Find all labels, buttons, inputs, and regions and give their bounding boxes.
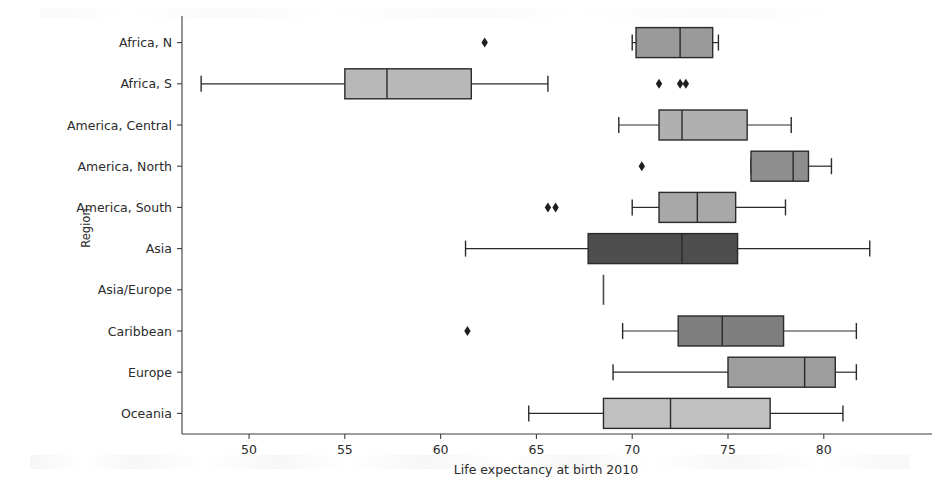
box-group-america-central <box>619 110 791 140</box>
outlier-marker-america-south-0 <box>545 202 551 212</box>
outlier-marker-africa-s-0 <box>656 79 662 89</box>
x-tick-label-75: 75 <box>720 442 736 457</box>
box-group-africa-n <box>481 28 718 58</box>
y-tick-label-africa-s: Africa, S <box>120 76 172 91</box>
boxplot-svg: Africa, NAfrica, SAmerica, CentralAmeric… <box>0 0 941 490</box>
box-rect-asia <box>588 234 737 264</box>
x-tick-label-65: 65 <box>528 442 544 457</box>
box-group-caribbean <box>464 316 856 346</box>
box-rect-europe <box>728 357 835 387</box>
y-tick-label-asia: Asia <box>146 241 172 256</box>
boxplot-figure: Africa, NAfrica, SAmerica, CentralAmeric… <box>0 0 941 490</box>
x-tick-label-60: 60 <box>433 442 449 457</box>
outlier-marker-africa-s-2 <box>683 79 689 89</box>
box-rect-oceania <box>603 398 770 428</box>
x-axis-title: Life expectancy at birth 2010 <box>454 462 638 477</box>
x-tick-label-80: 80 <box>816 442 832 457</box>
outlier-marker-america-north-0 <box>639 161 645 171</box>
y-tick-label-america-central: America, Central <box>67 118 172 133</box>
x-tick-label-70: 70 <box>624 442 640 457</box>
box-group-oceania <box>529 398 843 428</box>
y-tick-label-asia-europe: Asia/Europe <box>98 282 173 297</box>
box-group-europe <box>613 357 856 387</box>
y-tick-label-oceania: Oceania <box>121 406 172 421</box>
box-group-america-south <box>545 192 786 222</box>
y-axis-title: Region <box>79 208 93 247</box>
y-tick-label-caribbean: Caribbean <box>108 324 172 339</box>
y-tick-label-america-north: America, North <box>78 159 172 174</box>
outlier-marker-africa-s-1 <box>677 79 683 89</box>
box-group-africa-s <box>201 69 689 99</box>
x-tick-label-50: 50 <box>241 442 257 457</box>
y-tick-label-africa-n: Africa, N <box>119 35 172 50</box>
box-rect-america-north <box>751 151 808 181</box>
y-tick-label-europe: Europe <box>128 365 172 380</box>
box-rect-africa-n <box>636 28 713 58</box>
box-rect-america-central <box>659 110 747 140</box>
box-rect-caribbean <box>678 316 783 346</box>
box-group-asia <box>466 234 870 264</box>
x-tick-label-55: 55 <box>337 442 353 457</box>
box-rect-africa-s <box>345 69 471 99</box>
outlier-marker-africa-n-0 <box>481 38 487 48</box>
outlier-marker-america-south-1 <box>552 202 558 212</box>
outlier-marker-caribbean-0 <box>464 326 470 336</box>
box-group-america-north <box>639 151 832 181</box>
